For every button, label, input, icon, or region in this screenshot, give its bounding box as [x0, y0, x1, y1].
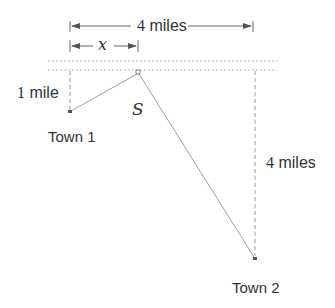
town1-distance-label: 1 mile: [17, 85, 59, 101]
station-label: S: [132, 101, 144, 118]
total-arrow-left-head: [71, 23, 80, 29]
total-distance-number: 4: [137, 17, 145, 34]
town1-distance-unit: mile: [25, 84, 59, 101]
x-arrow-left-head: [71, 43, 80, 49]
town1-label: Town 1: [48, 129, 96, 144]
total-distance-label: 4 miles: [136, 18, 188, 34]
town1-point: [68, 110, 72, 113]
station-point: [136, 70, 140, 74]
town1-to-station-line: [71, 74, 137, 111]
town1-distance-number: 1: [17, 84, 25, 101]
town2-label: Town 2: [232, 280, 280, 295]
x-variable-label: x: [98, 37, 107, 53]
town2-distance-label: 4 miles: [266, 155, 316, 171]
town2-point: [253, 257, 257, 260]
total-distance-unit: miles: [145, 17, 187, 34]
town2-distance-unit: miles: [274, 154, 316, 171]
total-arrow-right-head: [243, 23, 252, 29]
x-arrow-right-head: [128, 43, 137, 49]
town2-distance-number: 4: [266, 154, 274, 171]
station-to-town2-line: [139, 74, 254, 257]
